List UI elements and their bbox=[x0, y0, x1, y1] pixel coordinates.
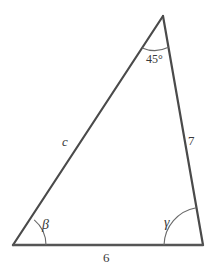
triangle-figure: c 7 6 45° β γ bbox=[0, 0, 213, 273]
side-label-c: c bbox=[62, 135, 68, 148]
angle-label-gamma: γ bbox=[164, 216, 170, 230]
triangle-side-right-7 bbox=[163, 16, 203, 245]
angle-label-beta: β bbox=[42, 218, 49, 232]
angle-label-45-degrees: 45° bbox=[146, 53, 163, 65]
side-label-7: 7 bbox=[188, 134, 195, 147]
triangle-diagram-svg bbox=[0, 0, 213, 273]
side-label-6: 6 bbox=[103, 251, 110, 264]
triangle-side-left-c bbox=[13, 16, 163, 245]
angle-arc-apex bbox=[142, 47, 168, 50]
